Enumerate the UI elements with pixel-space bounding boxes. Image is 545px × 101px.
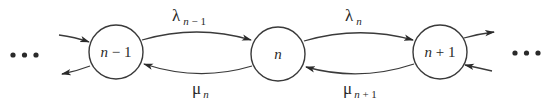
state-node-n-plus-1: n + 1 [413,25,467,79]
edge-lambda-n [304,33,413,41]
node-label: n + 1 [425,44,456,60]
right-ellipsis [512,50,540,55]
edge-mu-n-plus-1 [306,64,414,74]
outgoing-arrow-left [62,66,90,74]
node-label: n [274,46,282,62]
left-ellipsis [10,52,38,57]
node-label: n − 1 [101,44,132,60]
rate-label-lambda-n-minus-1: λn − 1 [172,6,206,27]
edge-mu-n [144,64,252,74]
rate-label-mu-n-plus-1: μn + 1 [343,79,377,100]
rate-label-lambda-n: λn [345,6,362,27]
birth-death-diagram: n − 1 n n + 1 λn − 1 μn λn μn + 1 [0,0,545,101]
incoming-arrow-left [59,35,89,42]
incoming-arrow-right [465,65,492,71]
edge-lambda-n-minus-1 [142,32,251,40]
rate-label-mu-n: μn [192,79,209,100]
state-node-n-minus-1: n − 1 [89,25,143,79]
outgoing-arrow-right [464,32,494,38]
state-node-n: n [251,27,305,81]
